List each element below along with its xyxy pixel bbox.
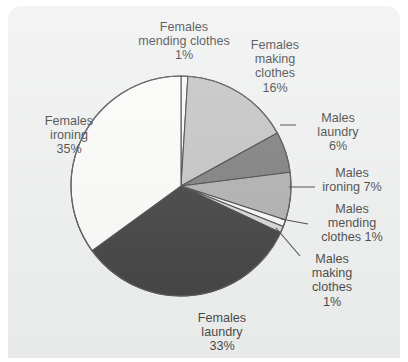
chart-panel: Females mending clothes 1% Females makin… xyxy=(8,6,400,358)
label-females-making-clothes: Females making clothes 16% xyxy=(230,38,320,95)
label-males-making-clothes: Males making clothes 1% xyxy=(292,252,372,309)
label-males-ironing: Males ironing 7% xyxy=(304,166,400,194)
label-females-ironing: Females ironing 35% xyxy=(24,114,114,157)
pie-slices-group xyxy=(71,76,291,296)
label-males-mending-clothes: Males mending clothes 1% xyxy=(304,202,400,245)
label-females-laundry: Females laundry 33% xyxy=(176,311,268,354)
label-males-laundry: Males laundry 6% xyxy=(298,111,378,154)
